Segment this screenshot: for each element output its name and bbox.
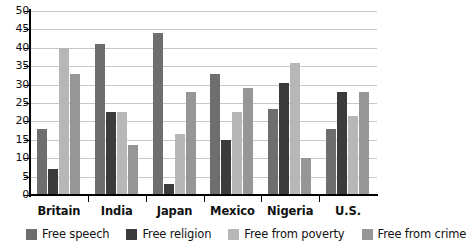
x-axis-tick-mark [261,196,262,202]
bar [128,145,138,195]
bar [210,74,220,195]
bar [48,169,58,195]
bar [268,109,278,195]
bar [359,92,369,195]
bar [95,44,105,195]
chart-legend: Free speechFree religionFree from povert… [26,228,471,240]
legend-item: Free from crime [362,228,467,240]
x-axis-tick-mark [319,196,320,202]
x-axis-category-label: Nigeria [261,205,319,218]
x-axis-tick-mark [204,196,205,202]
x-axis-category-label: Mexico [204,205,262,218]
bar [301,158,311,195]
bar [326,129,336,195]
x-axis-tick-mark [88,196,89,202]
legend-swatch-icon [126,229,137,240]
bar [175,134,185,195]
bars-layer [30,11,377,195]
legend-label: Free from poverty [244,228,344,240]
legend-swatch-icon [362,229,373,240]
x-axis-category-label: U.S. [319,205,377,218]
bar [290,63,300,195]
bar [232,112,242,195]
bar [37,129,47,195]
bar [348,116,358,195]
legend-label: Free speech [42,228,109,240]
bar [337,92,347,195]
bar [59,48,69,195]
bar [243,88,253,195]
legend-swatch-icon [26,229,37,240]
legend-swatch-icon [228,229,239,240]
bar [279,83,289,195]
bar [186,92,196,195]
legend-item: Free speech [26,228,109,240]
y-axis-line [29,9,31,197]
bar [106,112,116,195]
bar [70,74,80,195]
bar [221,140,231,195]
x-axis-tick-mark [146,196,147,202]
legend-item: Free from poverty [228,228,344,240]
x-axis-category-label: Japan [146,205,204,218]
x-axis-category-label: Britain [30,205,88,218]
legend-item: Free religion [126,228,211,240]
bar [117,112,127,195]
x-axis-category-label: India [88,205,146,218]
bar [153,33,163,195]
legend-label: Free religion [142,228,211,240]
legend-label: Free from crime [378,228,467,240]
